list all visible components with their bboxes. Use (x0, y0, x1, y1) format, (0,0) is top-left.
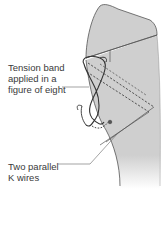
label-tension-band-line-3: figure of eight (8, 84, 66, 95)
leader-line-k-wires (58, 133, 118, 164)
tension-band-bottom-tail (77, 105, 86, 125)
label-tension-band-line-1: Tension band (8, 62, 66, 73)
label-k-wires-line-1: Two parallel (8, 161, 59, 172)
label-tension-band-line-2: applied in a (8, 73, 66, 84)
wire-twist-knot-icon (108, 120, 112, 124)
label-k-wires-line-2: K wires (8, 172, 59, 183)
label-k-wires: Two parallel K wires (8, 161, 59, 183)
label-tension-band: Tension band applied in a figure of eigh… (8, 62, 66, 95)
